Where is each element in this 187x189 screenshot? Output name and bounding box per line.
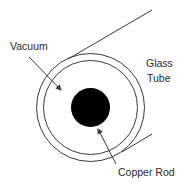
tube-top-edge-line [68,10,152,59]
copper-rod [71,88,110,127]
glass-tube-label-line1: Glass [146,57,173,69]
tube-cross-section-diagram: Vacuum Glass Tube Copper Rod [0,0,187,189]
glass-tube-label-line2: Tube [147,72,171,84]
vacuum-pointer-arrow [29,57,61,90]
tube-bottom-edge-line [122,134,152,152]
copper-rod-label: Copper Rod [118,166,175,178]
vacuum-label: Vacuum [10,40,48,52]
